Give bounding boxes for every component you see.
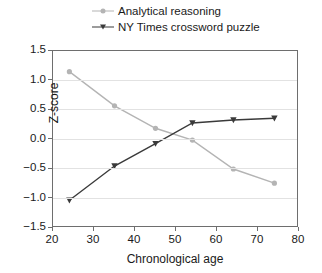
x-tick-mark bbox=[298, 227, 299, 231]
x-tick-label: 20 bbox=[32, 233, 72, 245]
gridline bbox=[53, 80, 297, 81]
y-tick-mark bbox=[48, 197, 52, 198]
y-tick-label: 1.5 bbox=[6, 43, 46, 55]
y-tick-label: −1.5 bbox=[6, 220, 46, 232]
gridline bbox=[53, 139, 297, 140]
legend-item-analytical-reasoning[interactable]: Analytical reasoning bbox=[92, 4, 260, 18]
x-tick-mark bbox=[216, 227, 217, 231]
y-tick-label: −1.0 bbox=[6, 191, 46, 203]
x-tick-label: 60 bbox=[196, 233, 236, 245]
x-tick-label: 70 bbox=[237, 233, 277, 245]
x-tick-label: 30 bbox=[73, 233, 113, 245]
y-tick-mark bbox=[48, 168, 52, 169]
data-point bbox=[153, 126, 158, 131]
circle-marker-icon bbox=[92, 5, 114, 17]
x-axis-label: Chronological age bbox=[52, 252, 298, 266]
gridline bbox=[53, 109, 297, 110]
legend-label: Analytical reasoning bbox=[118, 5, 221, 17]
chart-figure: Analytical reasoning NY Times crossword … bbox=[0, 0, 322, 273]
y-axis-label: Z-score bbox=[47, 43, 61, 163]
x-tick-mark bbox=[93, 227, 94, 231]
x-tick-mark bbox=[175, 227, 176, 231]
y-tick-label: 0.0 bbox=[6, 132, 46, 144]
data-series-layer bbox=[53, 51, 299, 228]
legend-item-ny-times-crossword-puzzle[interactable]: NY Times crossword puzzle bbox=[92, 20, 260, 34]
x-tick-label: 40 bbox=[114, 233, 154, 245]
data-point bbox=[112, 103, 117, 108]
series-line-1 bbox=[69, 72, 274, 184]
data-point bbox=[67, 69, 72, 74]
y-tick-label: 1.0 bbox=[6, 73, 46, 85]
triangle-marker-icon bbox=[92, 21, 114, 33]
x-tick-label: 80 bbox=[278, 233, 318, 245]
plot-area bbox=[52, 50, 298, 227]
y-tick-label: −0.5 bbox=[6, 161, 46, 173]
data-point bbox=[152, 141, 158, 147]
chart-legend: Analytical reasoning NY Times crossword … bbox=[92, 4, 260, 34]
x-tick-mark bbox=[134, 227, 135, 231]
gridline bbox=[53, 198, 297, 199]
x-tick-mark bbox=[257, 227, 258, 231]
x-tick-mark bbox=[52, 227, 53, 231]
legend-label: NY Times crossword puzzle bbox=[118, 21, 260, 33]
data-point bbox=[272, 181, 277, 186]
gridline bbox=[53, 168, 297, 169]
y-tick-label: 0.5 bbox=[6, 102, 46, 114]
series-line-2 bbox=[69, 118, 274, 200]
x-tick-label: 50 bbox=[155, 233, 195, 245]
